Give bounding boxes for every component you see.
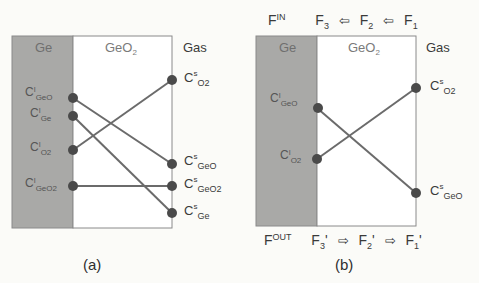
label-base: C xyxy=(184,153,193,168)
panel-b-flux-out: FOUT F3' ⇨ F2' ⇨ F1' xyxy=(264,233,422,251)
flux-in-term-1: F1 xyxy=(404,12,418,28)
panel-b-flux-in: FIN F3 ⇦ F2 ⇦ F1 xyxy=(268,13,418,31)
panel-b-inner-label-geo: CIGeO xyxy=(270,92,298,108)
flux-in-term-3: F3 xyxy=(315,12,329,28)
flux-out-label: FOUT xyxy=(264,232,292,248)
label-sub: Ge xyxy=(41,114,52,123)
panel-a-dot-surface-geo2 xyxy=(167,181,177,191)
label-sub: Ge xyxy=(197,211,209,221)
panel-b-region-ge: Ge xyxy=(279,41,296,54)
term-prime: ' xyxy=(325,232,328,248)
right-arrow-icon: ⇨ xyxy=(338,234,349,247)
term-prime: ' xyxy=(419,232,422,248)
panel-a-inner-label-o2: CIO2 xyxy=(30,141,51,157)
panel-a-dot-surface-geo xyxy=(167,159,177,169)
label-sup: s xyxy=(439,182,443,191)
panel-b-caption: (b) xyxy=(335,257,353,272)
panel-a-surface-label-geo: CsGeO xyxy=(184,154,216,171)
label-base: C xyxy=(430,183,439,198)
label-base: C xyxy=(25,176,34,190)
label-base: C xyxy=(184,70,193,85)
panel-a-graphics xyxy=(12,36,177,228)
panel-b-surface-label-o2: CsO2 xyxy=(430,79,455,96)
panel-a-surface-label-o2: CsO2 xyxy=(184,71,209,88)
label-sup: s xyxy=(439,77,443,86)
label-base: C xyxy=(270,91,279,105)
panel-a-caption: (a) xyxy=(83,257,101,272)
panel-b-dot-surface-geo xyxy=(411,188,421,198)
label-base: C xyxy=(184,176,193,191)
label-sup: I xyxy=(279,92,281,99)
label-base: C xyxy=(184,203,193,218)
flux-label-base: F xyxy=(264,232,273,248)
label-sub: GeO xyxy=(281,99,298,108)
label-sup: s xyxy=(193,152,197,161)
label-base: C xyxy=(280,148,289,162)
flux-in-term-2: F2 xyxy=(360,12,374,28)
panel-a-dot-inner-ge xyxy=(68,111,78,121)
label-sub: O2 xyxy=(41,148,52,157)
panel-a-dot-inner-o2 xyxy=(68,145,78,155)
panel-a-dot-surface-o2 xyxy=(167,75,177,85)
flux-in-label: FIN xyxy=(268,12,286,28)
panel-a-ge-region xyxy=(12,36,73,228)
term-sub: 3 xyxy=(324,21,329,31)
label-sub: O2 xyxy=(443,86,455,96)
panel-a-inner-label-ge: CIGe xyxy=(30,107,51,123)
left-arrow-icon: ⇦ xyxy=(383,14,394,27)
panel-a-surface-label-geo2: CsGeO2 xyxy=(184,177,221,194)
flux-out-term-2: F2' xyxy=(358,232,374,248)
label-base: C xyxy=(30,140,39,154)
panel-b-dot-inner-o2 xyxy=(312,154,322,164)
panel-b-oxide-region xyxy=(317,36,416,226)
oxide-sub: 2 xyxy=(375,48,379,57)
label-sub: GeO xyxy=(36,93,53,102)
panel-a-inner-label-geo2: CIGeO2 xyxy=(25,177,57,193)
panel-b-inner-label-o2: CIO2 xyxy=(280,149,301,165)
term-prime: ' xyxy=(372,232,375,248)
flux-out-term-1: F1' xyxy=(405,232,421,248)
label-base: C xyxy=(430,78,439,93)
panel-a-dot-surface-ge xyxy=(167,208,177,218)
panel-b-dot-inner-geo xyxy=(313,103,323,113)
term-base: F xyxy=(405,232,414,248)
label-sup: s xyxy=(193,69,197,78)
label-sup: I xyxy=(34,86,36,93)
label-sub: O2 xyxy=(291,156,302,165)
term-base: F xyxy=(404,12,413,28)
panel-a-dot-inner-geo2 xyxy=(68,181,78,191)
label-sub: GeO xyxy=(197,161,216,171)
term-base: F xyxy=(315,12,324,28)
panel-b-surface-label-geo: CsGeO xyxy=(430,184,462,201)
flux-label-base: F xyxy=(268,12,277,28)
label-sub: GeO2 xyxy=(197,184,221,194)
flux-out-term-3: F3' xyxy=(311,232,327,248)
panel-a-region-ge: Ge xyxy=(35,41,52,54)
term-sub: 1 xyxy=(413,21,418,31)
label-sup: I xyxy=(289,149,291,156)
flux-label-sup: OUT xyxy=(273,232,292,242)
panel-b-region-oxide: GeO2 xyxy=(348,41,380,57)
label-sup: s xyxy=(193,175,197,184)
term-base: F xyxy=(358,232,367,248)
label-base: C xyxy=(30,106,39,120)
oxide-base: GeO xyxy=(105,40,132,55)
term-base: F xyxy=(311,232,320,248)
panel-b-dot-surface-o2 xyxy=(411,83,421,93)
panel-a-surface-label-ge: CsGe xyxy=(184,204,209,221)
label-sup: I xyxy=(39,141,41,148)
oxide-base: GeO xyxy=(348,40,375,55)
flux-label-sup: IN xyxy=(277,12,286,22)
label-sub: GeO2 xyxy=(36,184,57,193)
panel-a-region-gas: Gas xyxy=(183,41,207,54)
term-sub: 2 xyxy=(368,21,373,31)
left-arrow-icon: ⇦ xyxy=(339,14,350,27)
right-arrow-icon: ⇨ xyxy=(385,234,396,247)
term-base: F xyxy=(360,12,369,28)
panel-a-inner-label-geo: CIGeO xyxy=(25,86,53,102)
label-sup: I xyxy=(39,107,41,114)
panel-a-dot-inner-geo xyxy=(68,93,78,103)
panel-b-ge-region xyxy=(256,36,317,226)
oxide-sub: 2 xyxy=(132,48,136,57)
label-sup: I xyxy=(34,177,36,184)
